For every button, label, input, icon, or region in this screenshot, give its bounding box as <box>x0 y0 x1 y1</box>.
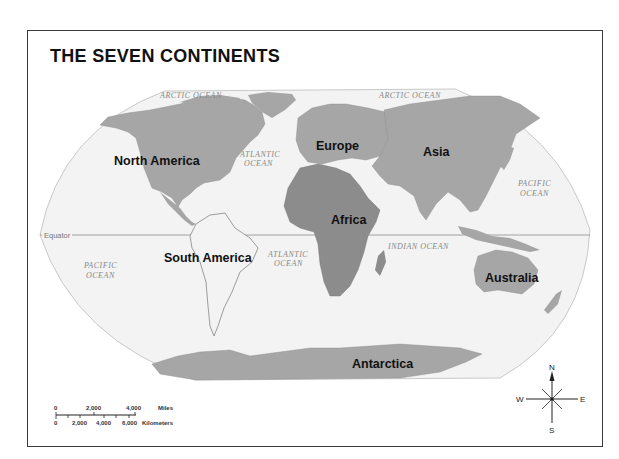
scale-miles-0: 0 <box>54 405 58 411</box>
label-south-america: South America <box>164 251 253 265</box>
compass-rose-icon: N S E W <box>510 363 590 443</box>
label-pacific-east-2: OCEAN <box>520 189 549 198</box>
scale-km-4000: 4,000 <box>96 420 112 426</box>
north-arrow-icon <box>550 371 555 381</box>
label-pacific-east-1: PACIFIC <box>517 179 551 188</box>
label-atlantic-north-2: OCEAN <box>244 159 273 168</box>
europe-shape <box>296 104 388 164</box>
scale-km-6000: 6,000 <box>122 420 138 426</box>
label-pacific-west-2: OCEAN <box>86 271 115 280</box>
scale-km-2000: 2,000 <box>72 420 88 426</box>
compass-n: N <box>549 363 555 372</box>
label-arctic-ocean-west: ARCTIC OCEAN <box>159 91 222 100</box>
label-europe: Europe <box>316 139 359 153</box>
compass-w: W <box>516 395 524 404</box>
compass-e: E <box>580 395 585 404</box>
scale-miles-unit: Miles <box>158 405 174 411</box>
label-africa: Africa <box>331 213 367 227</box>
label-atlantic-south-1: ATLANTIC <box>267 250 308 259</box>
label-atlantic-south-2: OCEAN <box>274 259 303 268</box>
label-north-america: North America <box>114 154 201 168</box>
label-indian-ocean: INDIAN OCEAN <box>387 242 449 251</box>
scale-km-unit: Kilometers <box>142 420 174 426</box>
scale-miles-2000: 2,000 <box>86 405 102 411</box>
compass-s: S <box>549 426 554 435</box>
label-australia: Australia <box>485 271 540 285</box>
label-antarctica: Antarctica <box>352 357 414 371</box>
equator-label: Equator <box>44 231 71 240</box>
label-arctic-ocean-east: ARCTIC OCEAN <box>378 91 441 100</box>
label-asia: Asia <box>423 145 450 159</box>
scale-km-0: 0 <box>54 420 58 426</box>
label-atlantic-north-1: ATLANTIC <box>239 150 280 159</box>
label-pacific-west-1: PACIFIC <box>83 261 117 270</box>
scale-miles-4000: 4,000 <box>126 405 142 411</box>
scale-bar: 0 2,000 4,000 Miles 0 2,000 4,000 6,000 … <box>38 403 198 433</box>
